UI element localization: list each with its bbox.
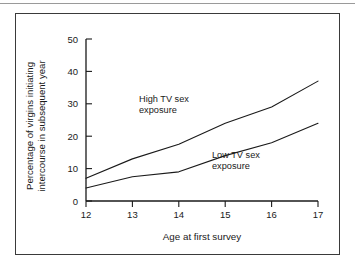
y-tick-label-10: 10 bbox=[67, 163, 78, 174]
x-tick-label-15: 15 bbox=[220, 209, 231, 220]
y-axis-tick-labels: 0 10 20 30 40 50 bbox=[67, 34, 78, 207]
annotation-high-line1: High TV sex bbox=[139, 94, 189, 104]
x-tick-label-14: 14 bbox=[174, 209, 185, 220]
y-tick-label-30: 30 bbox=[67, 98, 78, 109]
y-tick-label-50: 50 bbox=[67, 34, 78, 45]
y-axis-title: Percentage of virgins initiating interco… bbox=[24, 60, 47, 192]
x-axis bbox=[86, 201, 318, 207]
figure-frame: Percentage of virgins initiating interco… bbox=[15, 13, 340, 255]
y-tick-label-20: 20 bbox=[67, 131, 78, 142]
annotation-high-tv-sex-exposure: High TV sex exposure bbox=[139, 94, 189, 115]
x-tick-label-17: 17 bbox=[313, 209, 324, 220]
line-chart: Percentage of virgins initiating interco… bbox=[16, 14, 339, 254]
top-horizontal-rule bbox=[0, 3, 355, 4]
x-tick-label-12: 12 bbox=[81, 209, 92, 220]
y-axis-title-line2: intercourse in subsequent year bbox=[36, 60, 47, 192]
y-tick-label-40: 40 bbox=[67, 66, 78, 77]
x-axis-title: Age at first survey bbox=[163, 231, 242, 242]
y-tick-label-0: 0 bbox=[73, 196, 78, 207]
x-tick-label-13: 13 bbox=[127, 209, 138, 220]
annotation-low-tv-sex-exposure: Low TV sex exposure bbox=[212, 150, 260, 171]
y-axis-title-line1: Percentage of virgins initiating bbox=[24, 62, 35, 190]
series-line-low-tv-sex-exposure bbox=[86, 123, 318, 188]
annotation-low-line2: exposure bbox=[212, 161, 250, 171]
annotation-high-line2: exposure bbox=[139, 105, 177, 115]
x-axis-tick-labels: 12 13 14 15 16 17 bbox=[81, 209, 324, 220]
annotation-low-line1: Low TV sex bbox=[212, 150, 260, 160]
x-tick-label-16: 16 bbox=[266, 209, 277, 220]
